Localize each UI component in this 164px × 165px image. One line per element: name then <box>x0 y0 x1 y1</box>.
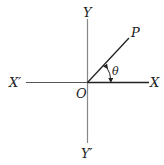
label-x-prime: X′ <box>8 75 21 90</box>
polar-angle-diagram: Y Y′ X X′ O P θ <box>0 0 164 165</box>
label-angle-theta: θ <box>112 65 119 78</box>
label-x: X <box>149 75 160 90</box>
label-point-p: P <box>130 25 140 40</box>
label-origin: O <box>76 86 87 101</box>
label-y-prime: Y′ <box>81 146 93 161</box>
ray-op <box>88 38 130 83</box>
label-y: Y <box>83 5 93 20</box>
angle-arc-icon <box>107 67 111 81</box>
